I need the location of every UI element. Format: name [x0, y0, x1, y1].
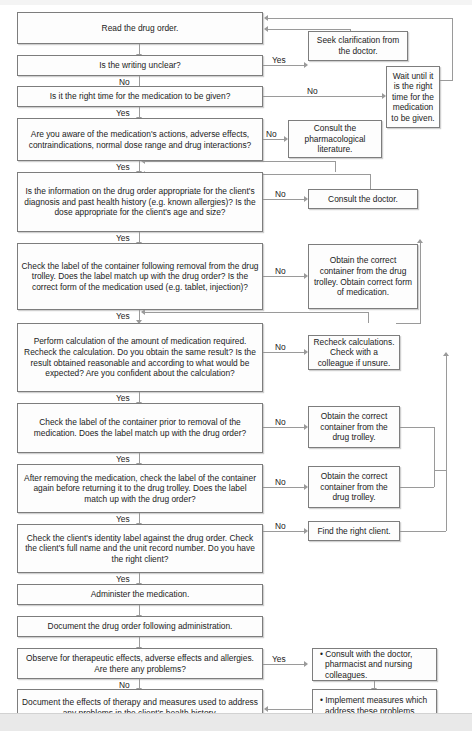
edge-labelprior-no — [263, 427, 305, 428]
edge-calc-no — [263, 352, 305, 353]
node-read-drug-order-label: Read the drug order. — [21, 23, 259, 34]
edge-pharm-return-h — [145, 161, 336, 162]
edge-info-no — [263, 199, 305, 200]
arrow-seek-return — [264, 26, 268, 32]
node-check-client-identity[interactable]: Check the client's identity label agains… — [17, 524, 263, 573]
node-check-label-returning[interactable]: After removing the medication, check the… — [17, 464, 263, 513]
node-check-label-after-removal[interactable]: Check the label of the container followi… — [17, 243, 263, 310]
arrow-recheck-return — [417, 239, 423, 243]
node-obtain-container-2-label: Obtain the correct container from the dr… — [312, 471, 396, 503]
node-consult-pharmacological[interactable]: Consult the pharmacological literature. — [288, 120, 382, 158]
edge-label-labelreturn-no: No — [275, 477, 286, 487]
node-aware-of-medication-label: Are you aware of the medication's action… — [21, 129, 259, 150]
node-obtain-container-2[interactable]: Obtain the correct container from the dr… — [308, 466, 400, 508]
edge-implement-to-documenteffects — [268, 709, 312, 710]
edge-wait-return-v — [452, 18, 453, 80]
edge-observe-yes — [263, 664, 305, 665]
edge-wait-return-h-top — [268, 18, 453, 19]
node-obtain-container-and-form-label: Obtain the correct container from the dr… — [312, 255, 414, 297]
node-find-right-client[interactable]: Find the right client. — [308, 521, 400, 541]
edge-label-checklabel-yes: Yes — [116, 311, 130, 321]
node-observe-effects[interactable]: Observe for therapeutic effects, adverse… — [17, 648, 263, 679]
edge-obtain-form-return-v — [368, 312, 369, 323]
node-read-drug-order[interactable]: Read the drug order. — [17, 12, 263, 44]
edge-recheck-return-v — [420, 243, 421, 323]
node-document-drug-order-label: Document the drug order following admini… — [21, 621, 259, 632]
edge-label-calc-no: No — [275, 342, 286, 352]
edge-label-writing-no: No — [119, 77, 130, 87]
edge-label-righttime-no: No — [307, 86, 318, 96]
arrow-right-rail-tall — [443, 352, 449, 356]
edge-obtain1-return-h — [400, 427, 434, 428]
edge-labelreturn-no — [263, 487, 305, 488]
node-obtain-container-1[interactable]: Obtain the correct container from the dr… — [308, 406, 400, 448]
node-administer-medication[interactable]: Administer the medication. — [17, 584, 263, 605]
arrow-observe-yes — [304, 661, 308, 667]
edge-label-aware-no: No — [266, 129, 277, 139]
node-obtain-container-and-form[interactable]: Obtain the correct container from the dr… — [308, 244, 418, 309]
node-info-appropriate[interactable]: Is the information on the drug order app… — [17, 172, 263, 232]
node-check-label-prior-label: Check the label of the container prior t… — [21, 417, 259, 438]
node-consult-colleagues[interactable]: • Consult with the doctor, pharmacist an… — [312, 648, 437, 681]
edge-right-rail-mid — [434, 427, 435, 487]
node-right-time-label: Is it the right time for the medication … — [21, 91, 259, 102]
edge-right-rail-tall — [446, 356, 447, 531]
node-recheck-calculations[interactable]: Recheck calculations. Check with a colle… — [308, 335, 400, 370]
node-consult-doctor[interactable]: Consult the doctor. — [308, 189, 418, 209]
node-writing-unclear-label: Is the writing unclear? — [21, 60, 259, 71]
edge-label-calc-yes: Yes — [116, 393, 130, 403]
node-administer-medication-label: Administer the medication. — [21, 589, 259, 600]
edge-findclient-return-h — [400, 531, 446, 532]
flowchart-page: Yes No No Yes No Yes No Yes No Yes No Ye… — [0, 0, 472, 731]
edge-label-labelreturn-yes: Yes — [116, 514, 130, 524]
node-check-label-after-removal-label: Check the label of the container followi… — [21, 261, 259, 293]
edge-recheck-return-h — [396, 323, 421, 324]
arrow-wait-return — [264, 15, 268, 21]
edge-consultdoc-return-v — [370, 174, 371, 189]
node-writing-unclear[interactable]: Is the writing unclear? — [17, 55, 263, 76]
node-seek-clarification[interactable]: Seek clarification from the doctor. — [308, 31, 408, 61]
node-perform-calculation[interactable]: Perform calculation of the amount of med… — [17, 323, 263, 392]
edge-label-identity-yes: Yes — [116, 574, 130, 584]
node-recheck-calculations-label: Recheck calculations. Check with a colle… — [312, 337, 396, 369]
node-info-appropriate-label: Is the information on the drug order app… — [21, 186, 259, 218]
edge-label-labelprior-no: No — [275, 417, 286, 427]
node-consult-colleagues-label: • Consult with the doctor, pharmacist an… — [320, 649, 433, 681]
edge-wait-return-h-out — [440, 80, 453, 81]
edge-label-aware-yes: Yes — [116, 162, 130, 172]
edge-checklabel-no — [263, 276, 305, 277]
node-consult-doctor-label: Consult the doctor. — [312, 194, 414, 205]
node-check-client-identity-label: Check the client's identity label agains… — [21, 533, 259, 565]
edge-identity-no — [263, 531, 305, 532]
edge-pharm-return-v — [335, 161, 336, 172]
edge-seek-return-h — [268, 29, 351, 30]
node-obtain-container-1-label: Obtain the correct container from the dr… — [312, 411, 396, 443]
node-seek-clarification-label: Seek clarification from the doctor. — [312, 35, 404, 56]
node-check-label-prior[interactable]: Check the label of the container prior t… — [17, 403, 263, 453]
edge-writing-yes — [263, 65, 305, 66]
footer-strip — [0, 713, 472, 731]
edge-label-labelprior-yes: Yes — [116, 454, 130, 464]
node-document-drug-order[interactable]: Document the drug order following admini… — [17, 616, 263, 637]
edge-label-writing-yes: Yes — [272, 55, 286, 65]
node-perform-calculation-label: Perform calculation of the amount of med… — [21, 336, 259, 378]
edge-rail-join — [434, 470, 447, 471]
edge-label-info-no: No — [275, 189, 286, 199]
node-wait-until-right-time-label: Wait until it is the right time for the … — [390, 71, 436, 124]
node-right-time[interactable]: Is it the right time for the medication … — [17, 86, 263, 107]
node-aware-of-medication[interactable]: Are you aware of the medication's action… — [17, 118, 263, 161]
edge-obtain2-return-h — [400, 487, 434, 488]
edge-label-identity-no: No — [275, 521, 286, 531]
node-observe-effects-label: Observe for therapeutic effects, adverse… — [21, 653, 259, 674]
edge-label-observe-yes: Yes — [272, 654, 286, 664]
node-find-right-client-label: Find the right client. — [312, 526, 396, 537]
edge-righttime-no — [263, 96, 383, 97]
node-consult-pharmacological-label: Consult the pharmacological literature. — [292, 123, 378, 155]
edge-aware-no — [263, 139, 285, 140]
node-wait-until-right-time[interactable]: Wait until it is the right time for the … — [386, 66, 440, 128]
edge-obtain-form-return-h — [145, 312, 369, 313]
edge-label-info-yes: Yes — [116, 233, 130, 243]
edge-label-righttime-yes: Yes — [116, 108, 130, 118]
node-check-label-returning-label: After removing the medication, check the… — [21, 473, 259, 505]
edge-label-checklabel-no: No — [275, 266, 286, 276]
